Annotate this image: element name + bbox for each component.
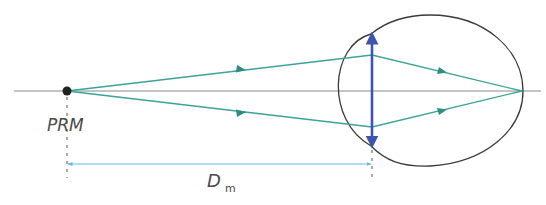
- ray-upper: [67, 55, 522, 91]
- distance-label-subscript: m: [225, 182, 236, 195]
- ray-diagram: PRM D m: [0, 0, 546, 205]
- object-point-icon: [63, 87, 72, 96]
- distance-label: D: [207, 170, 221, 191]
- ray-lower: [67, 91, 522, 127]
- point-label: PRM: [47, 115, 84, 135]
